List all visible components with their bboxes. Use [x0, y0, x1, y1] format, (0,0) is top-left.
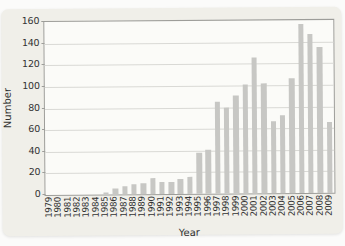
- bar-2003: [271, 121, 277, 193]
- y-tick-label-20: 20: [13, 166, 40, 178]
- bar-1990: [150, 178, 156, 194]
- bar-1991: [159, 182, 164, 194]
- bar-2008: [317, 47, 323, 193]
- bar-1999: [233, 95, 239, 193]
- bar-2006: [298, 24, 305, 193]
- x-axis-tick-labels: 1979198019811982198319841985198619871988…: [0, 0, 344, 1]
- y-tick-mark-40: [42, 151, 45, 152]
- y-tick-label-0: 0: [13, 188, 40, 200]
- gridline-120: [45, 63, 334, 66]
- bar-2004: [280, 115, 286, 193]
- x-axis-title: Year: [45, 226, 334, 239]
- bar-2007: [307, 34, 314, 193]
- y-tick-label-140: 140: [12, 37, 39, 49]
- y-tick-mark-160: [41, 21, 44, 22]
- x-tick-label-2009: 2009: [323, 195, 334, 226]
- y-tick-mark-0: [42, 194, 45, 195]
- y-tick-mark-140: [41, 43, 44, 44]
- bar-1988: [131, 185, 136, 195]
- scanned-figure: Number 020406080100120140160 19791980198…: [0, 0, 345, 246]
- y-tick-label-160: 160: [12, 15, 39, 27]
- bar-1994: [187, 177, 193, 194]
- bar-1985: [103, 192, 108, 194]
- y-tick-mark-60: [42, 129, 45, 130]
- bar-1992: [169, 182, 174, 194]
- bar-1987: [122, 187, 127, 195]
- bar-1986: [113, 188, 118, 195]
- bar-2000: [242, 84, 248, 193]
- y-tick-mark-120: [42, 64, 45, 65]
- bar-1997: [215, 102, 221, 194]
- bar-1998: [224, 107, 230, 194]
- y-tick-label-40: 40: [13, 145, 40, 157]
- y-tick-label-80: 80: [13, 101, 40, 113]
- y-tick-label-60: 60: [13, 123, 40, 135]
- bar-2001: [252, 57, 258, 193]
- bar-1995: [196, 153, 202, 194]
- bar-1993: [178, 179, 183, 194]
- bar-1989: [141, 183, 146, 194]
- bar-2005: [289, 79, 295, 194]
- y-tick-label-100: 100: [13, 80, 40, 92]
- bar-2009: [327, 122, 333, 193]
- y-tick-mark-20: [42, 172, 45, 173]
- y-tick-label-120: 120: [13, 58, 40, 70]
- gridline-140: [44, 41, 333, 44]
- y-axis-tick-labels: 020406080100120140160: [0, 0, 344, 1]
- plot-area: [43, 19, 335, 196]
- bar-1996: [206, 149, 212, 193]
- y-tick-mark-80: [42, 107, 45, 108]
- bar-2002: [261, 83, 267, 193]
- y-tick-mark-100: [42, 86, 45, 87]
